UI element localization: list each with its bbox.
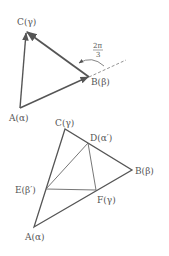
label-a-bottom: A(α) — [24, 232, 45, 242]
label-c-bottom: C(γ) — [55, 118, 74, 128]
vector-a-to-b — [20, 77, 88, 108]
outer-triangle-abc — [34, 129, 132, 227]
dashed-extension — [89, 60, 126, 77]
angle-denominator: 3 — [96, 51, 100, 59]
label-d-bottom: D(α′) — [90, 133, 112, 143]
vector-b-to-c — [27, 32, 89, 77]
label-b-top: B(β) — [91, 77, 110, 87]
label-b-bottom: B(β) — [135, 166, 154, 176]
label-f-bottom: F(γ) — [97, 195, 116, 205]
diagram-canvas: 2π 3 C(γ) A(α) B(β) C(γ) D(α′) B(β) E(β′… — [0, 0, 169, 256]
label-a-top: A(α) — [8, 113, 29, 123]
angle-arc — [79, 60, 104, 66]
angle-numerator: 2π — [93, 42, 102, 50]
vector-a-to-c — [20, 33, 26, 108]
top-triangle — [20, 32, 126, 108]
label-c-top: C(γ) — [17, 17, 36, 27]
bottom-triangle — [34, 129, 132, 227]
label-e-bottom: E(β′) — [15, 185, 36, 195]
